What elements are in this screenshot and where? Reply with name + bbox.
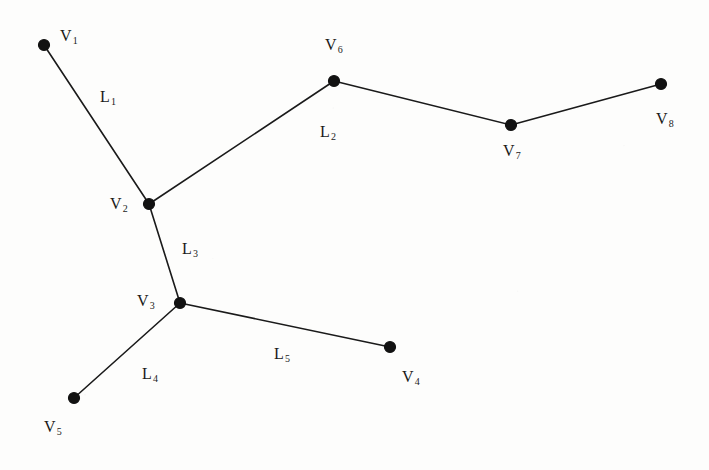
edges-group xyxy=(44,45,661,398)
graph-svg xyxy=(0,0,709,470)
vertex-label-base: V xyxy=(137,292,149,309)
vertex-dot-v8 xyxy=(656,79,667,90)
edge-l4 xyxy=(74,303,180,398)
vertex-label-base: V xyxy=(325,36,337,53)
vertex-label-subscript: 8 xyxy=(669,118,674,129)
vertex-label-base: V xyxy=(402,368,414,385)
vertex-label-subscript: 6 xyxy=(338,44,343,55)
vertex-label-base: V xyxy=(656,110,668,127)
vertex-label-base: V xyxy=(60,27,72,44)
vertex-label-v2: V2 xyxy=(110,196,127,212)
edge-label-base: L xyxy=(100,88,110,105)
vertex-label-v7: V7 xyxy=(503,143,520,159)
edge-label-subscript: 4 xyxy=(153,373,158,384)
vertex-label-subscript: 7 xyxy=(516,150,521,161)
vertex-dot-v3 xyxy=(175,298,186,309)
edge-label-subscript: 3 xyxy=(193,248,198,259)
vertex-label-base: V xyxy=(110,195,122,212)
edge-l3 xyxy=(149,204,180,303)
edge-label-base: L xyxy=(274,345,284,362)
edge-l2 xyxy=(149,81,661,204)
edge-label-l1: L1 xyxy=(100,89,115,105)
vertex-label-v1: V1 xyxy=(60,28,77,44)
edge-label-l3: L3 xyxy=(182,241,197,257)
edge-label-base: L xyxy=(320,123,330,140)
edge-l1 xyxy=(44,45,149,204)
vertex-label-v6: V6 xyxy=(325,37,342,53)
diagram-canvas: L1L2L3L4L5V1V2V3V4V5V6V7V8 xyxy=(0,0,709,470)
edge-label-l4: L4 xyxy=(142,366,157,382)
vertex-label-subscript: 1 xyxy=(73,35,78,46)
edge-label-subscript: 1 xyxy=(111,96,116,107)
vertex-dot-v4 xyxy=(385,342,396,353)
vertex-dot-v5 xyxy=(69,393,80,404)
vertex-dot-v1 xyxy=(39,40,50,51)
edge-l5 xyxy=(180,303,390,347)
vertex-label-base: V xyxy=(503,142,515,159)
vertex-label-subscript: 3 xyxy=(150,300,155,311)
edge-label-l2: L2 xyxy=(320,124,335,140)
vertex-label-subscript: 4 xyxy=(415,376,420,387)
vertex-dot-v6 xyxy=(329,76,340,87)
edge-label-base: L xyxy=(142,365,152,382)
vertex-label-subscript: 2 xyxy=(123,203,128,214)
nodes-group xyxy=(39,40,667,404)
edge-label-base: L xyxy=(182,240,192,257)
vertex-label-subscript: 5 xyxy=(57,426,62,437)
edge-label-subscript: 2 xyxy=(331,131,336,142)
vertex-label-v3: V3 xyxy=(137,293,154,309)
vertex-label-base: V xyxy=(44,418,56,435)
vertex-label-v4: V4 xyxy=(402,369,419,385)
edge-label-l5: L5 xyxy=(274,346,289,362)
vertex-dot-v2 xyxy=(144,199,155,210)
vertex-label-v8: V8 xyxy=(656,111,673,127)
vertex-label-v5: V5 xyxy=(44,419,61,435)
vertex-dot-v7 xyxy=(506,120,517,131)
edge-label-subscript: 5 xyxy=(285,353,290,364)
